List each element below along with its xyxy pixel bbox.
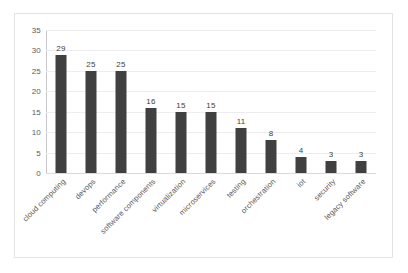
plot-area: 05101520253035 29cloud computing25devops…	[46, 30, 376, 173]
bar-value-label: 16	[146, 97, 155, 106]
bar-group: 25devops	[76, 30, 106, 173]
y-axis-tick-label: 25	[32, 66, 41, 75]
bar[interactable]	[236, 128, 247, 173]
bar-value-label: 11	[237, 117, 246, 126]
bar-group: 3legacy software	[346, 30, 376, 173]
chart-frame: 05101520253035 29cloud computing25devops…	[14, 13, 393, 258]
y-axis-tick-label: 30	[32, 46, 41, 55]
bar-value-label: 3	[329, 150, 334, 159]
bar-group: 3security	[316, 30, 346, 173]
gridline	[46, 173, 376, 174]
y-axis-tick-label: 35	[32, 26, 41, 35]
bar-group: 29cloud computing	[46, 30, 76, 173]
bar-value-label: 8	[269, 129, 274, 138]
y-axis-tick-label: 10	[32, 128, 41, 137]
x-axis-category-label: testing	[225, 177, 248, 200]
bar[interactable]	[176, 112, 187, 173]
bar-value-label: 29	[56, 44, 65, 53]
bar-group: 15microservices	[196, 30, 226, 173]
bar[interactable]	[86, 71, 97, 173]
bar-value-label: 25	[116, 60, 125, 69]
bar[interactable]	[326, 161, 337, 173]
x-axis-category-label: security	[312, 177, 337, 202]
bar[interactable]	[206, 112, 217, 173]
bar-value-label: 15	[206, 101, 215, 110]
bar-value-label: 25	[86, 60, 95, 69]
y-axis-tick-label: 15	[32, 107, 41, 116]
bar-group: 8orchestration	[256, 30, 286, 173]
x-axis-category-label: devops	[73, 177, 97, 201]
bar-group: 25performance	[106, 30, 136, 173]
y-axis-tick-label: 0	[36, 169, 41, 178]
x-axis-category-label: software components	[99, 177, 158, 236]
bar-value-label: 15	[176, 101, 185, 110]
bar-group: 11testing	[226, 30, 256, 173]
bar[interactable]	[296, 157, 307, 173]
bar-value-label: 4	[299, 146, 304, 155]
y-axis-tick-label: 20	[32, 87, 41, 96]
bar-group: 16software components	[136, 30, 166, 173]
bar-value-label: 3	[359, 150, 364, 159]
bar-group: 15virtualization	[166, 30, 196, 173]
bar[interactable]	[56, 55, 67, 173]
bar[interactable]	[266, 140, 277, 173]
x-axis-category-label: cloud computing	[21, 177, 68, 224]
bar[interactable]	[356, 161, 367, 173]
x-axis-category-label: iot	[295, 177, 307, 189]
bar-group: 4iot	[286, 30, 316, 173]
bar[interactable]	[116, 71, 127, 173]
bar[interactable]	[146, 108, 157, 173]
y-axis-tick-label: 5	[36, 148, 41, 157]
